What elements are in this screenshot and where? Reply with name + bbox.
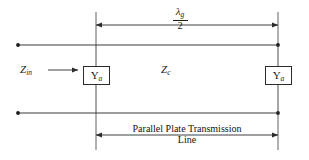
ya-left-symbol: Y bbox=[91, 69, 99, 81]
ya-right-symbol: Y bbox=[273, 69, 281, 81]
zc-subscript: c bbox=[167, 68, 170, 77]
fraction-numerator-subscript: g bbox=[181, 10, 185, 19]
fraction-numerator: λg bbox=[167, 6, 193, 19]
ya-left-subscript: a bbox=[99, 74, 103, 83]
admittance-box-left: Ya bbox=[83, 66, 110, 85]
admittance-box-right: Ya bbox=[265, 66, 292, 85]
label-characteristic-impedance: Zc bbox=[161, 64, 170, 77]
ya-right-subscript: a bbox=[281, 74, 285, 83]
label-guide-wavelength-half: λg 2 bbox=[167, 6, 193, 31]
admittance-box-left-label: Ya bbox=[84, 69, 109, 83]
caption-parallel-plate-transmission-line: Parallel Plate Transmission Line bbox=[104, 124, 270, 145]
terminal-dot-bottom-left bbox=[16, 111, 20, 115]
fraction-denominator: 2 bbox=[167, 21, 193, 32]
zin-subscript: in bbox=[26, 68, 32, 77]
caption-line-2: Line bbox=[104, 135, 270, 145]
diagram-canvas: λg 2 Zin Zc Ya Ya Parallel Plate Transmi… bbox=[0, 0, 309, 160]
terminal-dot-top-left bbox=[16, 43, 20, 47]
admittance-box-right-label: Ya bbox=[266, 69, 291, 83]
label-input-impedance: Zin bbox=[20, 64, 32, 77]
caption-line-1: Parallel Plate Transmission bbox=[133, 123, 242, 134]
